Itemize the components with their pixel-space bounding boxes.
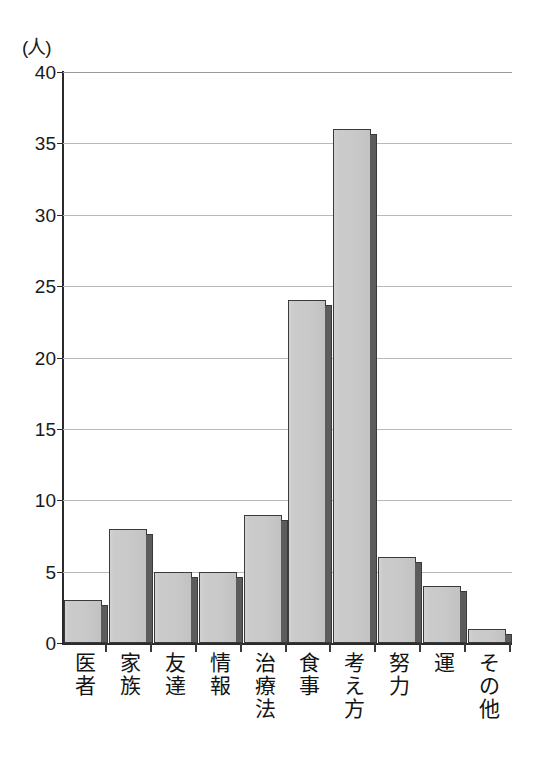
y-tick-mark-0 xyxy=(57,643,63,644)
bar-side-shadow xyxy=(101,605,108,643)
gridline-40 xyxy=(63,72,512,73)
x-tick-mark xyxy=(509,643,511,652)
x-label-8: 運 xyxy=(422,652,467,675)
x-tick-mark xyxy=(464,643,466,652)
bar-face xyxy=(468,629,506,643)
bar-face xyxy=(199,572,237,643)
y-tick-label-5: 5 xyxy=(14,563,56,582)
x-axis-line xyxy=(62,643,512,645)
x-label-7: 努 力 xyxy=(377,652,422,698)
y-tick-mark-5 xyxy=(57,572,63,573)
y-tick-mark-30 xyxy=(57,215,63,216)
x-tick-mark xyxy=(105,643,107,652)
bar xyxy=(378,557,423,643)
y-tick-label-20: 20 xyxy=(14,349,56,368)
y-tick-label-40: 40 xyxy=(14,63,56,82)
y-tick-mark-15 xyxy=(57,429,63,430)
x-label-2: 友 達 xyxy=(153,652,198,698)
bar xyxy=(423,586,468,643)
y-tick-label-15: 15 xyxy=(14,420,56,439)
bar-face xyxy=(109,529,147,643)
y-axis-unit-caption: (人) xyxy=(22,38,51,58)
bar-side-shadow xyxy=(325,305,332,643)
x-axis-labels: 医 者家 族友 達情 報治 療 法食 事考 え 方努 力運そ の 他 xyxy=(63,652,512,758)
y-tick-mark-35 xyxy=(57,143,63,144)
bar-side-shadow xyxy=(281,520,288,643)
x-label-6: 考 え 方 xyxy=(332,652,377,721)
bar-side-shadow xyxy=(370,134,377,643)
x-tick-mark xyxy=(374,643,376,652)
y-tick-mark-20 xyxy=(57,358,63,359)
bar-side-shadow xyxy=(415,562,422,643)
x-tick-mark xyxy=(195,643,197,652)
bar xyxy=(468,629,513,643)
y-tick-label-0: 0 xyxy=(14,634,56,653)
bar-side-shadow xyxy=(191,577,198,643)
bar-face xyxy=(288,300,326,643)
gridline-35 xyxy=(63,143,512,144)
bar xyxy=(199,572,244,643)
bar-face xyxy=(378,557,416,643)
bar-side-shadow xyxy=(236,577,243,643)
x-tick-mark xyxy=(240,643,242,652)
x-label-4: 治 療 法 xyxy=(243,652,288,721)
x-tick-mark xyxy=(150,643,152,652)
bar-side-shadow xyxy=(505,634,512,643)
y-tick-label-25: 25 xyxy=(14,277,56,296)
x-label-0: 医 者 xyxy=(63,652,108,698)
bar-face xyxy=(154,572,192,643)
bar-face xyxy=(423,586,461,643)
plot-area xyxy=(63,72,512,643)
bar-face xyxy=(333,129,371,643)
x-label-9: そ の 他 xyxy=(467,652,512,721)
bar-side-shadow xyxy=(146,534,153,643)
bar xyxy=(244,515,289,643)
bar xyxy=(333,129,378,643)
bar-side-shadow xyxy=(460,591,467,643)
x-label-5: 食 事 xyxy=(288,652,333,698)
bar-face xyxy=(64,600,102,643)
y-tick-label-10: 10 xyxy=(14,491,56,510)
bar-chart: (人) 4035302520151050 医 者家 族友 達情 報治 療 法食 … xyxy=(0,0,544,762)
bar-face xyxy=(244,515,282,643)
x-label-3: 情 報 xyxy=(198,652,243,698)
bar xyxy=(64,600,109,643)
x-tick-mark xyxy=(419,643,421,652)
y-tick-mark-40 xyxy=(57,72,63,73)
x-tick-mark xyxy=(329,643,331,652)
bar xyxy=(288,300,333,643)
y-tick-label-35: 35 xyxy=(14,134,56,153)
bar xyxy=(109,529,154,643)
gridline-30 xyxy=(63,215,512,216)
bar xyxy=(154,572,199,643)
y-tick-mark-10 xyxy=(57,500,63,501)
y-tick-mark-25 xyxy=(57,286,63,287)
x-tick-mark xyxy=(285,643,287,652)
x-label-1: 家 族 xyxy=(108,652,153,698)
y-tick-label-30: 30 xyxy=(14,206,56,225)
gridline-25 xyxy=(63,286,512,287)
